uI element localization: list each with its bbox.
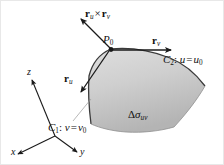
axis-y-text: y: [80, 146, 84, 157]
axis-label-y: y: [80, 147, 84, 157]
area-element-label: Δσuv: [128, 109, 147, 122]
curve-c2-equals: =: [185, 53, 193, 65]
curve-c1-label: C1: v=v0: [48, 122, 86, 135]
curve-c1-value-sub: 0: [83, 127, 87, 135]
tangent-u-label: ru: [64, 73, 73, 86]
x-axis: [18, 136, 55, 154]
curve-c1-colon: :: [59, 121, 62, 133]
cross-product-symbol: ×: [94, 7, 102, 19]
surface-patch-figure: ru×rv P0 rv ru C2: u=u0 C1: v=v0 Δσuv z …: [0, 0, 224, 165]
point-p0-label: P0: [103, 34, 113, 47]
tangent-u-sub: u: [69, 78, 73, 86]
axis-label-x: x: [11, 147, 15, 157]
normal-r-u-sub: u: [90, 13, 94, 21]
curve-c1-equals: =: [70, 121, 78, 133]
figure-canvas: [0, 0, 224, 165]
point-p0-name: P: [103, 33, 110, 45]
curve-c1-param: v: [65, 121, 70, 133]
axis-label-z: z: [27, 67, 31, 77]
tangent-v-label: rv: [152, 35, 160, 48]
normal-vector-label: ru×rv: [85, 8, 110, 21]
axis-z-text: z: [27, 66, 31, 77]
coordinate-axes: [18, 80, 77, 154]
area-element-sub: uv: [141, 114, 148, 122]
c1-leader-line: [73, 99, 91, 121]
normal-r-v-sub: v: [107, 13, 110, 21]
y-axis: [55, 136, 77, 152]
tangent-v-sub: v: [157, 40, 160, 48]
point-p0-dot: [109, 47, 114, 52]
curve-c2-colon: :: [174, 53, 177, 65]
point-p0-sub: 0: [110, 39, 114, 47]
axis-x-text: x: [11, 146, 15, 157]
curve-c2-value-sub: 0: [199, 59, 203, 67]
curve-c2-label: C2: u=u0: [163, 54, 203, 67]
